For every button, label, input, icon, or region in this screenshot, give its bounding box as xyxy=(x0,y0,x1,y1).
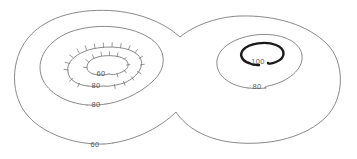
left-depression-80-hachures xyxy=(64,43,144,89)
label-left-depression-60: 60 xyxy=(96,69,105,78)
label-left-80: 80 xyxy=(91,100,100,109)
contour-map-figure: 60 80 80 60 80 100 xyxy=(0,0,357,159)
label-outer-60: 60 xyxy=(90,140,99,149)
label-right-80: 80 xyxy=(252,82,261,91)
outer-60-contour-path xyxy=(15,10,341,144)
outer-60-contour-label-tail xyxy=(104,143,113,144)
left-depression-80-contour-path xyxy=(68,47,142,86)
left-depression-80-contour xyxy=(64,43,144,89)
left-80-contour-path xyxy=(40,26,163,105)
contour-labels: 60 80 80 60 80 100 xyxy=(90,57,264,149)
left-depression-60-contour-path xyxy=(87,56,128,75)
left-80-contour xyxy=(40,26,163,105)
label-right-100: 100 xyxy=(251,57,265,66)
label-left-depression-80: 80 xyxy=(91,81,100,90)
outer-60-contour xyxy=(15,10,341,144)
contour-map-canvas: 60 80 80 60 80 100 xyxy=(0,0,357,159)
left-depression-60-contour xyxy=(83,52,129,77)
